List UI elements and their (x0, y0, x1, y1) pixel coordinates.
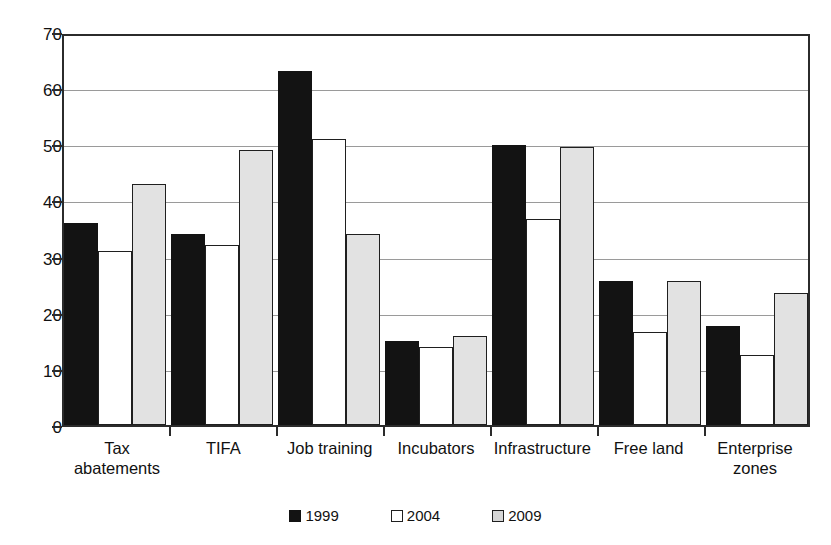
bar-group (278, 36, 380, 425)
bar-tifa-2009[interactable] (239, 150, 273, 425)
x-axis-label-line2: zones (702, 458, 808, 478)
bar-enterprise-zones-2009[interactable] (774, 293, 808, 425)
bar-tifa-1999[interactable] (171, 234, 205, 425)
bar-chart: 010203040506070 TaxabatementsTIFAJob tra… (0, 0, 831, 545)
bar-group (385, 36, 487, 425)
legend-item-2009[interactable]: 2009 (492, 508, 541, 523)
bar-infrastructure-2009[interactable] (560, 147, 594, 425)
y-axis-tick-mark (52, 370, 62, 372)
y-axis-tick-mark (52, 426, 62, 428)
x-axis-tick-mark (276, 427, 278, 436)
legend-label: 1999 (305, 508, 338, 523)
legend-item-2004[interactable]: 2004 (391, 508, 440, 523)
bar-infrastructure-1999[interactable] (492, 145, 526, 425)
bar-enterprise-zones-2004[interactable] (740, 355, 774, 425)
y-axis-tick-mark (52, 145, 62, 147)
bar-free-land-1999[interactable] (599, 281, 633, 425)
x-axis-labels: TaxabatementsTIFAJob trainingIncubatorsI… (64, 438, 808, 498)
x-axis-label-line1: Incubators (397, 439, 474, 457)
x-axis-label-infrastructure: Infrastructure (489, 438, 595, 498)
legend-swatch-icon (492, 510, 504, 522)
bar-tax-abatements-2004[interactable] (98, 251, 132, 425)
bar-groups (64, 36, 808, 425)
legend-label: 2009 (508, 508, 541, 523)
y-axis-tick-mark (52, 89, 62, 91)
x-axis-label-line1: Job training (287, 439, 372, 457)
bar-tax-abatements-2009[interactable] (132, 184, 166, 425)
bar-job-training-2009[interactable] (346, 234, 380, 425)
bar-free-land-2009[interactable] (667, 281, 701, 425)
x-axis-label-line1: TIFA (206, 439, 241, 457)
bar-incubators-1999[interactable] (385, 341, 419, 425)
bar-job-training-2004[interactable] (312, 139, 346, 425)
x-axis-label-line1: Tax (104, 439, 130, 457)
y-axis-tick-mark (52, 314, 62, 316)
bar-infrastructure-2004[interactable] (526, 219, 560, 425)
legend-swatch-icon (391, 510, 403, 522)
x-axis-label-job-training: Job training (277, 438, 383, 498)
bar-group (706, 36, 808, 425)
bar-group (492, 36, 594, 425)
legend-item-1999[interactable]: 1999 (289, 508, 338, 523)
x-axis-label-free-land: Free land (596, 438, 702, 498)
y-axis: 010203040506070 (0, 0, 62, 545)
x-axis-tick-mark (169, 427, 171, 436)
y-axis-tick-mark (52, 258, 62, 260)
x-axis-tick-mark (383, 427, 385, 436)
legend-swatch-icon (289, 510, 301, 522)
bar-enterprise-zones-1999[interactable] (706, 326, 740, 425)
bar-group (599, 36, 701, 425)
bar-group (171, 36, 273, 425)
x-axis-label-enterprise-zones: Enterprisezones (702, 438, 808, 498)
x-axis-label-line1: Enterprise (717, 439, 792, 457)
bar-incubators-2004[interactable] (419, 347, 453, 425)
y-axis-tick-mark (52, 33, 62, 35)
x-axis-label-line2: abatements (64, 458, 170, 478)
x-axis-label-incubators: Incubators (383, 438, 489, 498)
y-axis-tick-mark (52, 201, 62, 203)
bar-group (64, 36, 166, 425)
bar-free-land-2004[interactable] (633, 332, 667, 425)
x-axis-tick-mark (597, 427, 599, 436)
x-axis-label-line1: Infrastructure (494, 439, 591, 457)
bar-job-training-1999[interactable] (278, 71, 312, 425)
x-axis-label-tax-abatements: Taxabatements (64, 438, 170, 498)
bar-incubators-2009[interactable] (453, 336, 487, 425)
x-axis-tick-mark (490, 427, 492, 436)
x-axis-label-line1: Free land (614, 439, 684, 457)
bar-tifa-2004[interactable] (205, 245, 239, 425)
bar-tax-abatements-1999[interactable] (64, 223, 98, 425)
chart-legend: 199920042009 (0, 508, 831, 523)
legend-label: 2004 (407, 508, 440, 523)
x-axis-tick-mark (704, 427, 706, 436)
x-axis-label-tifa: TIFA (170, 438, 276, 498)
